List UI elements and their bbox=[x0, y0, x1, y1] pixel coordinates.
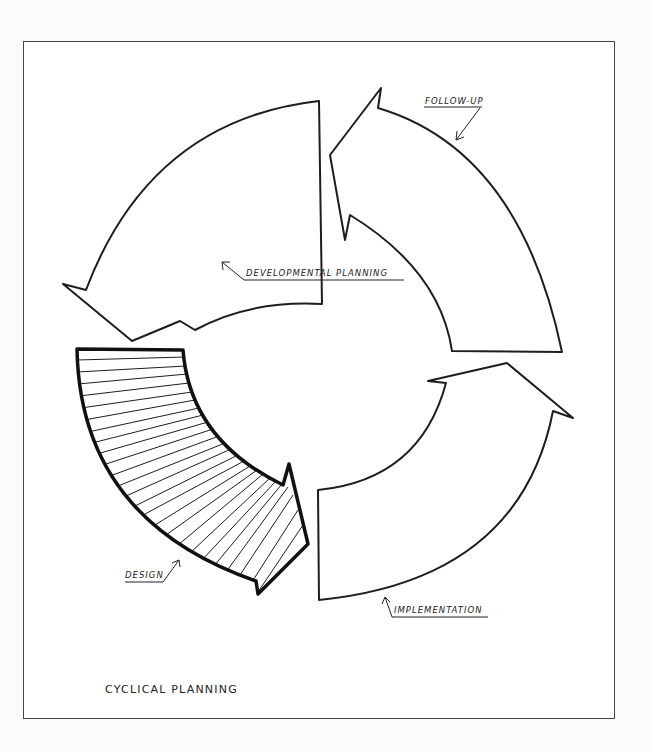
label-implementation: IMPLEMENTATION bbox=[382, 597, 488, 617]
arrow-design bbox=[77, 349, 308, 594]
label-developmental-planning-text: DEVELOPMENTAL PLANNING bbox=[246, 268, 388, 278]
cycle-diagram: FOLLOW-UP DEVELOPMENTAL PLANNING DESIGN … bbox=[0, 0, 653, 752]
label-follow-up-text: FOLLOW-UP bbox=[425, 96, 484, 106]
label-implementation-text: IMPLEMENTATION bbox=[394, 605, 483, 615]
label-design: DESIGN bbox=[125, 560, 180, 582]
page: FOLLOW-UP DEVELOPMENTAL PLANNING DESIGN … bbox=[0, 0, 653, 752]
diagram-title: CYCLICAL PLANNING bbox=[105, 683, 238, 696]
arrow-follow-up bbox=[330, 88, 562, 352]
arrow-implementation bbox=[318, 363, 573, 600]
label-design-text: DESIGN bbox=[125, 570, 164, 580]
arrow-developmental-planning bbox=[63, 101, 322, 341]
